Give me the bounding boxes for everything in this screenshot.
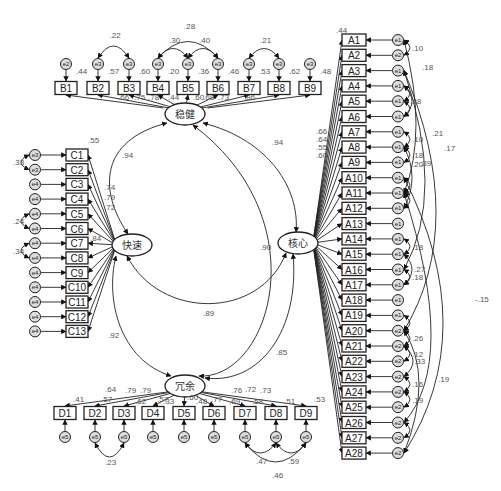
indicator-A23[interactable]: A23 bbox=[342, 371, 366, 383]
latent-stable[interactable]: 稳健 bbox=[165, 103, 205, 125]
indicator-D3[interactable]: D3 bbox=[113, 407, 135, 420]
svg-text:e2: e2 bbox=[395, 328, 402, 334]
indicator-D4[interactable]: D4 bbox=[142, 407, 164, 420]
indicator-A27[interactable]: A27 bbox=[342, 432, 366, 444]
r-squared-label: .36 bbox=[198, 67, 210, 76]
indicator-C12[interactable]: C12 bbox=[66, 311, 88, 323]
indicator-A4[interactable]: A4 bbox=[342, 80, 366, 92]
indicator-A25[interactable]: A25 bbox=[342, 401, 366, 413]
error-term-icon: e1 bbox=[393, 310, 404, 321]
indicator-C10[interactable]: C10 bbox=[66, 281, 88, 293]
indicator-A6[interactable]: A6 bbox=[342, 111, 366, 123]
indicator-A10[interactable]: A10 bbox=[342, 172, 366, 184]
error-term-icon: e1 bbox=[393, 142, 404, 153]
indicator-A1[interactable]: A1 bbox=[342, 34, 366, 46]
indicator-A17[interactable]: A17 bbox=[342, 279, 366, 291]
error-term-icon: e4 bbox=[30, 179, 41, 190]
svg-text:D3: D3 bbox=[118, 408, 131, 419]
indicator-A19[interactable]: A19 bbox=[342, 309, 366, 321]
latent-correlation-label: .94 bbox=[272, 138, 284, 147]
indicator-D8[interactable]: D8 bbox=[265, 407, 287, 420]
indicator-C9[interactable]: C9 bbox=[66, 267, 88, 279]
svg-text:A5: A5 bbox=[348, 96, 361, 107]
indicator-A18[interactable]: A18 bbox=[342, 294, 366, 306]
indicator-B9[interactable]: B9 bbox=[299, 82, 321, 95]
error-term-icon: e2 bbox=[393, 356, 404, 367]
indicator-D5[interactable]: D5 bbox=[173, 407, 195, 420]
svg-text:A21: A21 bbox=[345, 341, 363, 352]
indicator-A22[interactable]: A22 bbox=[342, 355, 366, 367]
svg-text:A10: A10 bbox=[345, 173, 363, 184]
svg-text:e5: e5 bbox=[181, 434, 188, 440]
r-squared-label: .53 bbox=[259, 67, 271, 76]
svg-text:A25: A25 bbox=[345, 402, 363, 413]
indicator-A8[interactable]: A8 bbox=[342, 141, 366, 153]
svg-text:D7: D7 bbox=[239, 408, 252, 419]
r-squared-label: .20 bbox=[168, 67, 180, 76]
indicator-A26[interactable]: A26 bbox=[342, 417, 366, 429]
indicator-A21[interactable]: A21 bbox=[342, 340, 366, 352]
indicator-C11[interactable]: C11 bbox=[66, 296, 88, 308]
coef-label: .76 bbox=[231, 386, 243, 395]
coef-label: .39 bbox=[420, 159, 432, 168]
indicator-C4[interactable]: C4 bbox=[66, 193, 88, 205]
coef-label: .27 bbox=[414, 265, 426, 274]
latent-core[interactable]: 核心 bbox=[278, 232, 318, 254]
indicator-A15[interactable]: A15 bbox=[342, 248, 366, 260]
indicator-C13[interactable]: C13 bbox=[66, 325, 88, 337]
indicator-D6[interactable]: D6 bbox=[203, 407, 225, 420]
indicator-D2[interactable]: D2 bbox=[84, 407, 106, 420]
svg-text:A24: A24 bbox=[345, 387, 363, 398]
latent-correlation-path bbox=[109, 123, 167, 234]
svg-text:e1: e1 bbox=[395, 205, 402, 211]
indicator-C5[interactable]: C5 bbox=[66, 208, 88, 220]
indicator-A12[interactable]: A12 bbox=[342, 202, 366, 214]
svg-text:e1: e1 bbox=[395, 98, 402, 104]
indicator-A14[interactable]: A14 bbox=[342, 233, 366, 245]
indicator-A5[interactable]: A5 bbox=[342, 95, 366, 107]
svg-text:A6: A6 bbox=[348, 112, 361, 123]
indicator-C6[interactable]: C6 bbox=[66, 223, 88, 235]
indicator-C2[interactable]: C2 bbox=[66, 164, 88, 176]
indicator-D7[interactable]: D7 bbox=[234, 407, 256, 420]
error-term-icon: e2 bbox=[61, 59, 72, 70]
svg-text:A8: A8 bbox=[348, 142, 361, 153]
indicator-A20[interactable]: A20 bbox=[342, 325, 366, 337]
error-term-icon: e5 bbox=[301, 432, 312, 443]
svg-text:e2: e2 bbox=[395, 358, 402, 364]
error-term-icon: e2 bbox=[393, 417, 404, 428]
svg-text:A3: A3 bbox=[348, 66, 361, 77]
latent-correlation-label: .85 bbox=[276, 348, 288, 357]
indicator-B8[interactable]: B8 bbox=[268, 82, 290, 95]
indicator-A9[interactable]: A9 bbox=[342, 156, 366, 168]
error-term-icon: e4 bbox=[30, 252, 41, 263]
error-term-icon: e5 bbox=[209, 432, 220, 443]
indicator-D1[interactable]: D1 bbox=[54, 407, 76, 420]
latent-fast[interactable]: 快速 bbox=[112, 234, 152, 256]
error-term-icon: e2 bbox=[393, 402, 404, 413]
indicator-A2[interactable]: A2 bbox=[342, 49, 366, 61]
indicator-A7[interactable]: A7 bbox=[342, 126, 366, 138]
svg-text:e5: e5 bbox=[92, 434, 99, 440]
indicator-A16[interactable]: A16 bbox=[342, 264, 366, 276]
indicator-C8[interactable]: C8 bbox=[66, 252, 88, 264]
coef-label: .58 bbox=[252, 397, 264, 406]
indicator-A24[interactable]: A24 bbox=[342, 386, 366, 398]
indicator-A13[interactable]: A13 bbox=[342, 218, 366, 230]
error-term-icon: e1 bbox=[393, 80, 404, 91]
error-term-icon: e1 bbox=[393, 279, 404, 290]
indicator-C1[interactable]: C1 bbox=[66, 149, 88, 161]
indicator-B1[interactable]: B1 bbox=[55, 82, 77, 95]
indicator-C7[interactable]: C7 bbox=[66, 237, 88, 249]
indicator-A3[interactable]: A3 bbox=[342, 65, 366, 77]
indicator-C3[interactable]: C3 bbox=[66, 178, 88, 190]
indicator-A11[interactable]: A11 bbox=[342, 187, 366, 199]
indicator-D9[interactable]: D9 bbox=[295, 407, 317, 420]
svg-text:e1: e1 bbox=[395, 251, 402, 257]
latent-redundant[interactable]: 冗余 bbox=[165, 375, 205, 397]
indicator-B2[interactable]: B2 bbox=[87, 82, 109, 95]
svg-text:e4: e4 bbox=[32, 255, 39, 261]
coef-label: .51 bbox=[284, 397, 296, 406]
svg-text:e2: e2 bbox=[63, 61, 70, 67]
indicator-A28[interactable]: A28 bbox=[342, 447, 366, 459]
